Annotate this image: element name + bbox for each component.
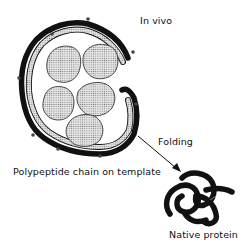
native-protein-label: Native protein	[169, 229, 238, 240]
blob-3	[43, 86, 74, 120]
blob-1	[47, 46, 81, 82]
template-blobs	[43, 44, 118, 146]
native-protein-tangle	[167, 173, 232, 224]
blob-2	[83, 44, 118, 79]
in-vivo-label: In vivo	[140, 15, 172, 26]
diagram-canvas	[0, 0, 249, 248]
blob-4	[77, 82, 115, 116]
blob-5	[66, 114, 103, 146]
folding-label: Folding	[158, 136, 193, 147]
template-label: Polypeptide chain on template	[13, 166, 161, 177]
